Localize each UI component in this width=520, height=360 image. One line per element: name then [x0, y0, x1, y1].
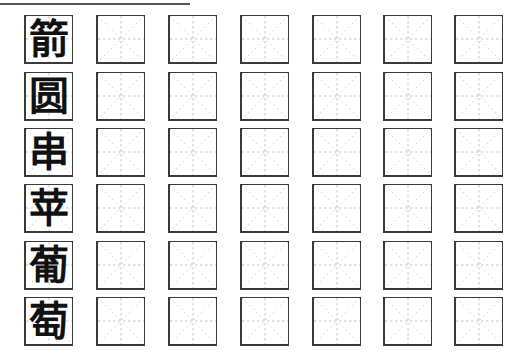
model-char-cell: 箭	[24, 15, 73, 64]
model-character: 箭	[26, 16, 72, 62]
mi-grid-guides-icon	[170, 129, 216, 175]
practice-cell[interactable]	[454, 241, 503, 290]
practice-cell[interactable]	[383, 184, 432, 233]
mi-grid-guides-icon	[314, 185, 360, 231]
mi-grid-guides-icon	[242, 16, 288, 62]
model-character: 串	[26, 129, 72, 175]
mi-grid-guides-icon	[242, 185, 288, 231]
model-character: 圆	[26, 73, 72, 119]
practice-cell[interactable]	[454, 72, 503, 121]
practice-cell[interactable]	[383, 297, 432, 346]
practice-cell[interactable]	[240, 184, 289, 233]
mi-grid-guides-icon	[170, 185, 216, 231]
mi-grid-guides-icon	[314, 242, 360, 288]
model-char-cell: 葡	[24, 241, 73, 290]
model-char-cell: 圆	[24, 72, 73, 121]
top-rule	[0, 3, 190, 5]
mi-grid-guides-icon	[385, 73, 431, 119]
mi-grid-guides-icon	[170, 298, 216, 344]
practice-cell[interactable]	[454, 15, 503, 64]
mi-grid-guides-icon	[456, 73, 502, 119]
mi-grid-guides-icon	[170, 242, 216, 288]
practice-cell[interactable]	[96, 128, 145, 177]
mi-grid-guides-icon	[242, 129, 288, 175]
mi-grid-guides-icon	[98, 185, 144, 231]
practice-cell[interactable]	[96, 241, 145, 290]
mi-grid-guides-icon	[314, 298, 360, 344]
model-character: 葡	[26, 242, 72, 288]
practice-cell[interactable]	[96, 184, 145, 233]
mi-grid-guides-icon	[456, 16, 502, 62]
mi-grid-guides-icon	[314, 73, 360, 119]
practice-cell[interactable]	[454, 297, 503, 346]
mi-grid-guides-icon	[98, 129, 144, 175]
model-char-cell: 串	[24, 128, 73, 177]
practice-cell[interactable]	[168, 72, 217, 121]
mi-grid-guides-icon	[385, 185, 431, 231]
mi-grid-guides-icon	[242, 242, 288, 288]
mi-grid-guides-icon	[314, 129, 360, 175]
practice-cell[interactable]	[312, 72, 361, 121]
practice-cell[interactable]	[383, 241, 432, 290]
mi-grid-guides-icon	[98, 298, 144, 344]
practice-cell[interactable]	[383, 72, 432, 121]
practice-cell[interactable]	[312, 297, 361, 346]
practice-cell[interactable]	[240, 241, 289, 290]
practice-cell[interactable]	[312, 128, 361, 177]
practice-cell[interactable]	[168, 128, 217, 177]
model-char-cell: 苹	[24, 184, 73, 233]
mi-grid-guides-icon	[98, 73, 144, 119]
mi-grid-guides-icon	[456, 185, 502, 231]
practice-cell[interactable]	[240, 128, 289, 177]
practice-cell[interactable]	[240, 297, 289, 346]
practice-cell[interactable]	[240, 15, 289, 64]
practice-cell[interactable]	[454, 128, 503, 177]
mi-grid-guides-icon	[456, 129, 502, 175]
mi-grid-guides-icon	[314, 16, 360, 62]
practice-cell[interactable]	[240, 72, 289, 121]
practice-cell[interactable]	[96, 15, 145, 64]
mi-grid-guides-icon	[456, 298, 502, 344]
practice-cell[interactable]	[168, 297, 217, 346]
mi-grid-guides-icon	[385, 16, 431, 62]
mi-grid-guides-icon	[456, 242, 502, 288]
practice-cell[interactable]	[168, 184, 217, 233]
practice-cell[interactable]	[96, 297, 145, 346]
mi-grid-guides-icon	[385, 129, 431, 175]
model-character: 苹	[26, 185, 72, 231]
practice-cell[interactable]	[312, 241, 361, 290]
mi-grid-guides-icon	[385, 298, 431, 344]
practice-cell[interactable]	[312, 15, 361, 64]
mi-grid-guides-icon	[242, 73, 288, 119]
model-character: 萄	[26, 298, 72, 344]
mi-grid-guides-icon	[170, 73, 216, 119]
practice-cell[interactable]	[96, 72, 145, 121]
practice-cell[interactable]	[383, 15, 432, 64]
model-char-cell: 萄	[24, 297, 73, 346]
mi-grid-guides-icon	[98, 16, 144, 62]
practice-cell[interactable]	[454, 184, 503, 233]
mi-grid-guides-icon	[170, 16, 216, 62]
practice-cell[interactable]	[168, 15, 217, 64]
practice-cell[interactable]	[168, 241, 217, 290]
mi-grid-guides-icon	[98, 242, 144, 288]
practice-cell[interactable]	[312, 184, 361, 233]
mi-grid-guides-icon	[242, 298, 288, 344]
practice-cell[interactable]	[383, 128, 432, 177]
mi-grid-guides-icon	[385, 242, 431, 288]
